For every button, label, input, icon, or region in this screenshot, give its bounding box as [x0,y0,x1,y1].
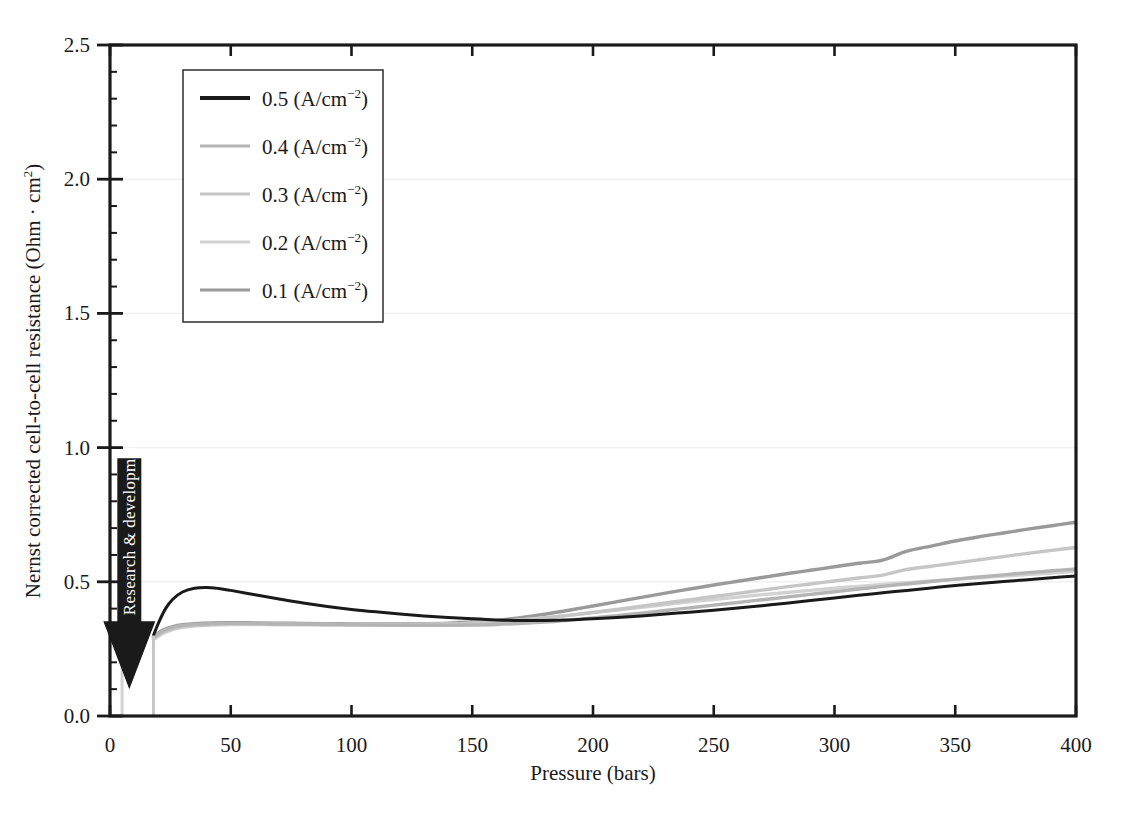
y-tick-label: 1.0 [64,436,90,460]
y-tick-label: 2.0 [64,167,90,191]
x-tick-label: 0 [105,733,116,757]
figure-background [0,0,1126,814]
x-axis-title: Pressure (bars) [530,761,655,785]
y-axis-title: Nernst corrected cell-to-cell resistance… [20,164,45,598]
y-axis-title-main: Nernst corrected cell-to-cell resistance… [21,177,45,598]
y-tick-label: 1.5 [64,301,90,325]
y-tick-label: 0.5 [64,570,90,594]
chart-canvas: Research & development 05010015020025030… [0,0,1126,814]
x-tick-label: 150 [457,733,489,757]
annotation-text-group: Research & development [120,437,139,615]
annotation-label: Research & development [120,437,139,615]
y-tick-label: 2.5 [64,33,90,57]
chart-figure: Research & development 05010015020025030… [0,0,1126,814]
x-tick-label: 300 [819,733,851,757]
x-tick-label: 100 [336,733,368,757]
y-axis-title-close: ) [21,164,45,171]
legend[interactable]: 0.5 (A/cm−2)0.4 (A/cm−2)0.3 (A/cm−2)0.2 … [183,70,383,322]
y-tick-label: 0.0 [64,704,90,728]
x-tick-label: 250 [698,733,730,757]
x-tick-label: 400 [1060,733,1092,757]
x-tick-label: 350 [940,733,972,757]
x-tick-label: 200 [577,733,609,757]
svg-text:Nernst corrected cell-to-cell: Nernst corrected cell-to-cell resistance… [20,164,45,598]
x-tick-label: 50 [220,733,241,757]
